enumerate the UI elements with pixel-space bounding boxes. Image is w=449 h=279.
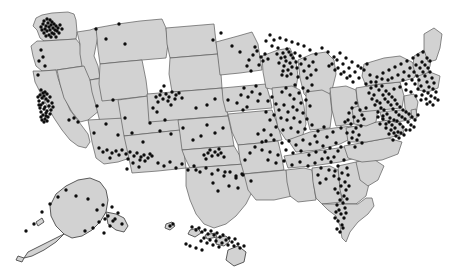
location-point <box>398 122 401 125</box>
location-point <box>125 167 128 170</box>
location-point <box>171 222 174 225</box>
location-point <box>227 184 230 187</box>
location-point <box>226 243 229 246</box>
location-point <box>37 103 40 106</box>
location-point <box>364 106 367 109</box>
location-point <box>355 138 358 141</box>
location-point <box>105 148 108 151</box>
location-point <box>233 237 236 240</box>
location-point <box>413 118 416 121</box>
location-point <box>260 148 263 151</box>
location-point <box>382 108 385 111</box>
location-point <box>332 55 335 58</box>
location-point <box>83 229 86 232</box>
location-point <box>385 112 388 115</box>
location-point <box>132 154 135 157</box>
location-point <box>339 72 342 75</box>
location-point <box>270 44 273 47</box>
location-point <box>272 38 275 41</box>
location-point <box>380 77 383 80</box>
state-montana <box>96 19 168 64</box>
location-point <box>333 169 336 172</box>
location-point <box>54 35 57 38</box>
location-point <box>245 105 248 108</box>
alaska-aleutian-island-2 <box>36 218 44 226</box>
location-point <box>306 164 309 167</box>
location-point <box>263 52 266 55</box>
location-point <box>242 244 245 247</box>
location-point <box>387 68 390 71</box>
location-point <box>280 73 283 76</box>
location-point <box>335 58 338 61</box>
location-point <box>342 194 345 197</box>
location-point <box>281 51 284 54</box>
location-point <box>173 97 176 100</box>
location-point <box>180 96 183 99</box>
location-point <box>181 126 184 129</box>
location-point <box>194 168 197 171</box>
location-point <box>386 100 389 103</box>
location-point <box>424 97 427 100</box>
location-point <box>46 99 49 102</box>
location-point <box>433 96 436 99</box>
location-point <box>356 64 359 67</box>
location-point <box>170 90 173 93</box>
location-point <box>168 224 171 227</box>
location-point <box>305 117 308 120</box>
location-point <box>379 106 382 109</box>
location-point <box>280 141 283 144</box>
location-point <box>86 197 89 200</box>
location-point <box>116 133 119 136</box>
location-point <box>276 46 279 49</box>
location-point <box>336 219 339 222</box>
location-point <box>425 102 428 105</box>
location-point <box>425 56 428 59</box>
location-point <box>301 111 304 114</box>
location-point <box>51 105 54 108</box>
location-point <box>101 203 104 206</box>
state-mississippi <box>286 168 316 202</box>
location-point <box>428 70 431 73</box>
location-point <box>48 28 51 31</box>
location-point <box>409 123 412 126</box>
location-point <box>245 64 248 67</box>
location-point <box>307 64 310 67</box>
location-point <box>299 101 302 104</box>
location-point <box>284 86 287 89</box>
location-point <box>387 132 390 135</box>
location-point <box>310 83 313 86</box>
location-point <box>45 29 48 32</box>
location-point <box>261 59 264 62</box>
location-point <box>334 210 337 213</box>
location-point <box>375 99 378 102</box>
location-point <box>432 81 435 84</box>
location-point <box>414 63 417 66</box>
location-point <box>416 87 419 90</box>
location-point <box>417 78 420 81</box>
location-point <box>248 151 251 154</box>
location-point <box>39 115 42 118</box>
location-point <box>277 108 280 111</box>
location-point <box>159 89 162 92</box>
location-point <box>392 87 395 90</box>
location-point <box>67 118 70 121</box>
location-point <box>320 157 323 160</box>
location-point <box>425 80 428 83</box>
location-point <box>208 238 211 241</box>
location-point <box>56 26 59 29</box>
location-point <box>169 132 172 135</box>
location-point <box>378 122 381 125</box>
location-point <box>236 186 239 189</box>
state-massachusetts-connecticut <box>418 72 440 92</box>
location-point <box>408 128 411 131</box>
location-point <box>393 126 396 129</box>
location-point <box>266 158 269 161</box>
location-point <box>376 115 379 118</box>
location-point <box>42 19 45 22</box>
location-point <box>208 148 211 151</box>
location-point <box>92 131 95 134</box>
location-point <box>206 232 209 235</box>
location-point <box>43 64 46 67</box>
location-point <box>302 44 305 47</box>
location-point <box>217 147 220 150</box>
